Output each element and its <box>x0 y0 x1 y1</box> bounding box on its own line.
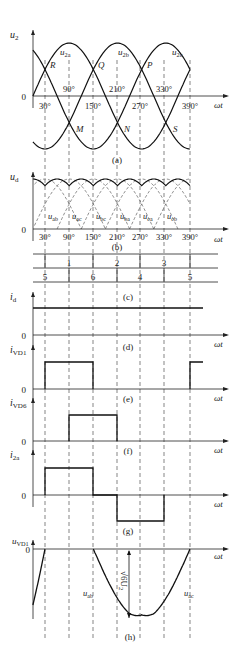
segment-label: uba <box>120 211 130 222</box>
thyristor-upper: 1 <box>67 258 72 268</box>
uvd1-trace-main <box>93 549 190 616</box>
caption-h: (h) <box>125 632 136 642</box>
crossing-point-label: P <box>146 60 153 70</box>
caption-e: (e) <box>123 394 133 404</box>
zero-label: 0 <box>22 491 27 501</box>
caption-f: (f) <box>124 446 133 456</box>
zero-label: 0 <box>22 437 27 447</box>
x-axis-arrow-icon <box>223 227 229 231</box>
curve-label: u2a <box>60 47 71 58</box>
zero-label: 0 <box>26 545 31 555</box>
angle-label: 390° <box>182 232 198 242</box>
thyristor-lower: 6 <box>91 272 96 282</box>
x-axis-label: ωt <box>214 393 223 403</box>
line-voltage-arc <box>130 179 190 229</box>
crossing-point-label: R <box>49 60 56 70</box>
y-axis-label: iVD1 <box>10 344 27 357</box>
amplitude-label: √6U2 <box>118 571 129 590</box>
caption-b: (b) <box>112 242 123 252</box>
thyristor-lower: 5 <box>188 272 193 282</box>
x-axis-label: ωt <box>214 234 223 244</box>
angle-label: 150° <box>85 101 101 111</box>
caption-c: (c) <box>123 292 133 302</box>
x-axis-arrow-icon <box>223 547 229 551</box>
thyristor-lower: 5 <box>43 272 48 282</box>
crossing-point-label: Q <box>98 60 105 70</box>
y-axis-arrow-icon <box>31 172 35 177</box>
angle-label: 330° <box>156 232 172 242</box>
y-axis-label: id <box>10 291 17 304</box>
x-axis-label: ωt <box>214 445 223 455</box>
segment-label: ubc <box>96 211 106 222</box>
curve-label-uab: uab <box>83 588 93 599</box>
caption-g: (g) <box>123 526 134 536</box>
x-axis-arrow-icon <box>223 439 229 443</box>
y-axis-arrow-icon <box>31 30 35 35</box>
arrow-up-icon <box>127 550 131 555</box>
y-axis-arrow-icon <box>31 540 35 545</box>
waveform-diagram: u20ωtu2au2bu2cRQPMNS90°210°330°30°150°27… <box>0 0 238 655</box>
thyristor-upper: 3 <box>162 258 167 268</box>
y-axis-arrow-icon <box>31 398 35 403</box>
crossing-point-label: M <box>75 124 84 134</box>
segment-label: uca <box>143 211 153 222</box>
crossing-point-label: S <box>173 124 178 134</box>
caption-a: (a) <box>112 155 122 165</box>
uvd1-trace-left <box>33 549 45 605</box>
angle-label: 270° <box>132 232 148 242</box>
x-axis-arrow-icon <box>223 333 229 337</box>
zero-label: 0 <box>22 92 27 102</box>
x-axis-arrow-icon <box>223 387 229 391</box>
curve-label-uac: uac <box>184 588 194 599</box>
x-axis-label: ωt <box>214 339 223 349</box>
angle-label: 270° <box>132 101 148 111</box>
segment-label: uac <box>72 211 82 222</box>
angle-label: 30° <box>39 101 51 111</box>
x-axis-arrow-icon <box>223 94 229 98</box>
zero-label: 0 <box>22 331 27 341</box>
curve-label: u2b <box>118 47 129 58</box>
angle-label: 210° <box>109 232 125 242</box>
line-voltage-arc <box>35 179 82 229</box>
segment-label: ucb <box>167 211 177 222</box>
thyristor-upper: 2 <box>115 258 120 268</box>
x-axis-label: ωt <box>214 499 223 509</box>
x-axis-label: ωt <box>214 100 223 110</box>
y-axis-label: iVD6 <box>10 397 27 410</box>
y-axis-label: i2a <box>10 449 20 462</box>
three-phase-bridge-rectifier-waveforms: u20ωtu2au2bu2cRQPMNS90°210°330°30°150°27… <box>0 0 238 655</box>
zero-label: 0 <box>22 385 27 395</box>
y-axis-label: u2 <box>10 29 19 42</box>
caption-d: (d) <box>123 342 134 352</box>
x-axis-arrow-icon <box>223 493 229 497</box>
i2a-trace <box>45 468 164 521</box>
arrow-down-icon <box>127 613 131 618</box>
y-axis-label: ud <box>10 171 19 184</box>
angle-label: 390° <box>182 101 198 111</box>
angle-label: 90° <box>63 84 75 94</box>
angle-label: 90° <box>63 232 75 242</box>
y-axis-arrow-icon <box>31 345 35 350</box>
segment-label: uab <box>48 211 58 222</box>
angle-label: 30° <box>39 232 51 242</box>
y-axis-arrow-icon <box>31 450 35 455</box>
zero-label: 0 <box>22 225 27 235</box>
x-axis-label: ωt <box>214 551 223 561</box>
thyristor-lower: 4 <box>138 272 143 282</box>
crossing-point-label: N <box>123 124 131 134</box>
angle-label: 210° <box>109 84 125 94</box>
angle-label: 330° <box>156 84 172 94</box>
angle-label: 150° <box>85 232 101 242</box>
y-axis-arrow-icon <box>31 292 35 297</box>
